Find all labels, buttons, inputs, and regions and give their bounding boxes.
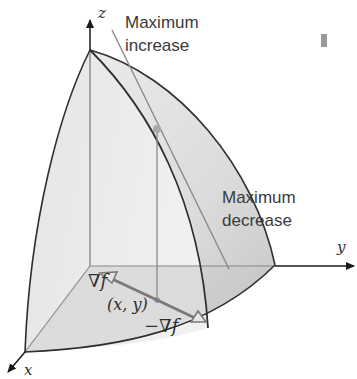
gradient-surface-figure: z y x Maximum increase Maximum decrease … (0, 0, 357, 379)
grad-label: ∇f (88, 270, 111, 291)
max-decrease-label-line1: Maximum (222, 188, 296, 207)
y-axis-label: y (336, 238, 346, 256)
z-axis-label: z (97, 4, 106, 22)
max-increase-label-line2: increase (125, 36, 189, 55)
neg-grad-label: −∇f (144, 315, 182, 336)
surface-point (153, 125, 161, 133)
x-axis (8, 352, 25, 372)
point-label: (x, y) (107, 295, 148, 314)
x-axis-label: x (24, 361, 33, 379)
diagram-canvas: z y x Maximum increase Maximum decrease … (0, 0, 357, 379)
max-decrease-label-line2: decrease (222, 211, 292, 230)
page-edge-mark (321, 34, 327, 47)
max-increase-label-line1: Maximum (125, 13, 199, 32)
